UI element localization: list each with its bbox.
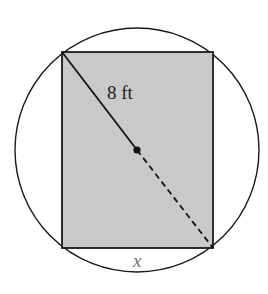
center-point bbox=[133, 146, 140, 153]
diagram-svg: 8 ft x bbox=[0, 0, 268, 294]
radius-label: 8 ft bbox=[107, 82, 134, 103]
side-length-label: x bbox=[132, 250, 142, 271]
geometry-diagram: 8 ft x bbox=[0, 0, 268, 294]
